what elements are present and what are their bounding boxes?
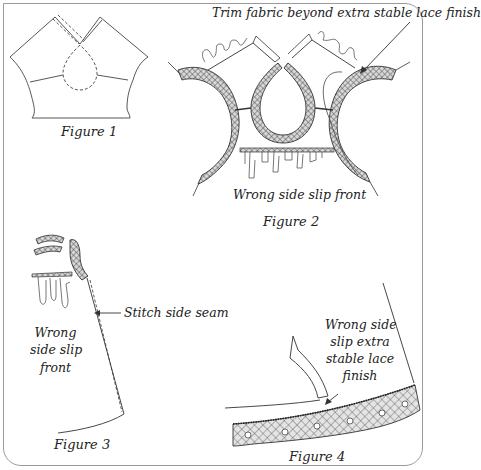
figure-4-annotation-line-4: finish: [325, 368, 395, 383]
figure-3-annotation-stitch: Stitch side seam: [124, 305, 229, 320]
figure-2-caption: Figure 2: [263, 214, 319, 229]
figure-1-caption: Figure 1: [61, 124, 117, 139]
figure-3-annotation-line-3: front: [33, 360, 78, 375]
figure-4-annotation-line-1: Wrong side: [325, 317, 395, 332]
figure-2-drawing: [168, 22, 410, 196]
figure-3-caption: Figure 3: [54, 437, 110, 452]
figure-4-annotation-line-3: stable lace: [325, 351, 395, 366]
figure-3-annotation-line-2: side slip: [30, 342, 80, 357]
figure-3-annotation-line-1: Wrong: [33, 325, 78, 340]
figure-1-drawing: [10, 15, 148, 118]
figure-2-annotation-wrong-side: Wrong side slip front: [233, 187, 366, 202]
figure-4-caption: Figure 4: [289, 449, 345, 464]
figure-4-annotation-line-2: slip extra: [325, 334, 395, 349]
figure-2-annotation-trim: Trim fabric beyond extra stable lace fin…: [212, 5, 481, 20]
